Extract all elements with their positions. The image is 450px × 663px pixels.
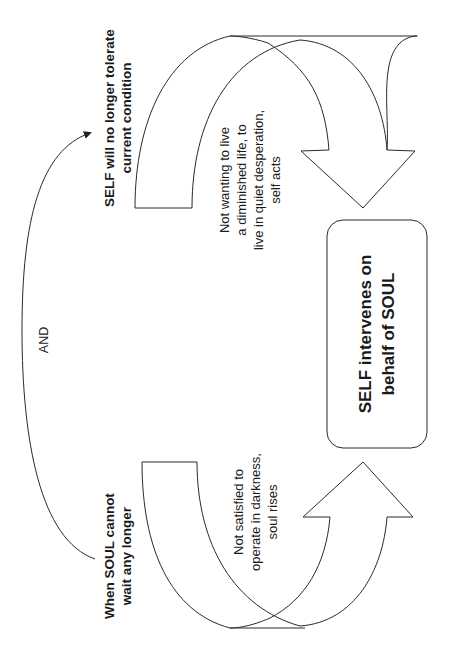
soul-wait-line-1: When SOUL cannot (101, 493, 118, 619)
not-wanting-line-4: self acts (267, 110, 284, 250)
soul-wait-line-2: wait any longer (118, 493, 135, 619)
and-connector-arrow (22, 133, 95, 559)
soul-wait-label: When SOUL cannot wait any longer (101, 493, 135, 619)
not-satisfied-line-1: Not satisfied to (230, 453, 247, 571)
not-satisfied-line-3: soul rises (264, 453, 281, 571)
self-tolerate-label: SELF will no longer tolerate current con… (101, 29, 135, 207)
not-wanting-label: Not wanting to live a diminished life, t… (216, 110, 284, 250)
not-satisfied-label: Not satisfied to operate in darkness, so… (230, 453, 281, 571)
center-box-line-1: SELF intervenes on (354, 255, 377, 414)
center-box-label: SELF intervenes on behalf of SOUL (354, 255, 400, 414)
self-tolerate-line-2: current condition (118, 29, 135, 207)
not-wanting-line-3: live in quiet desperation, (250, 110, 267, 250)
self-tolerate-line-1: SELF will no longer tolerate (101, 29, 118, 207)
not-wanting-line-2: a diminished life, to (233, 110, 250, 250)
not-satisfied-line-2: operate in darkness, (247, 453, 264, 571)
and-label: AND (37, 327, 51, 353)
not-wanting-line-1: Not wanting to live (216, 110, 233, 250)
center-box-line-2: behalf of SOUL (377, 255, 400, 414)
